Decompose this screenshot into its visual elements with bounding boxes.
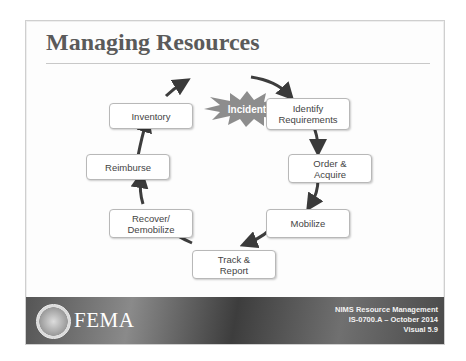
step-label: Identify bbox=[278, 103, 337, 114]
step-label: Inventory bbox=[131, 111, 170, 122]
step-label: Report bbox=[218, 265, 250, 276]
visual-number: Visual 5.9 bbox=[335, 325, 438, 335]
step-label: Demobilize bbox=[128, 224, 175, 235]
step-identify-requirements: IdentifyRequirements bbox=[266, 98, 350, 130]
step-order-acquire: Order &Acquire bbox=[288, 154, 372, 183]
course-id-date: IS-0700.A – October 2014 bbox=[335, 315, 438, 325]
footer-info: NIMS Resource Management IS-0700.A – Oct… bbox=[335, 305, 438, 335]
step-label: Mobilize bbox=[291, 218, 326, 229]
dhs-seal-icon bbox=[36, 304, 71, 339]
step-inventory: Inventory bbox=[109, 103, 193, 129]
step-label: Acquire bbox=[313, 169, 346, 180]
step-recover-demobilize: Recover/Demobilize bbox=[109, 209, 193, 238]
step-label: Order & bbox=[313, 158, 346, 169]
step-label: Reimburse bbox=[105, 162, 151, 173]
footer-banner: FEMA NIMS Resource Management IS-0700.A … bbox=[26, 297, 444, 344]
step-reimburse: Reimburse bbox=[86, 154, 170, 180]
step-label: Track & bbox=[218, 254, 250, 265]
step-label: Requirements bbox=[278, 114, 337, 125]
step-track-report: Track &Report bbox=[192, 250, 276, 279]
course-title: NIMS Resource Management bbox=[335, 305, 438, 315]
slide: Managing Resources Incident IdentifyRequ… bbox=[25, 20, 445, 345]
fema-logo: FEMA bbox=[74, 308, 134, 333]
step-mobilize: Mobilize bbox=[266, 209, 350, 238]
step-label: Recover/ bbox=[128, 213, 175, 224]
